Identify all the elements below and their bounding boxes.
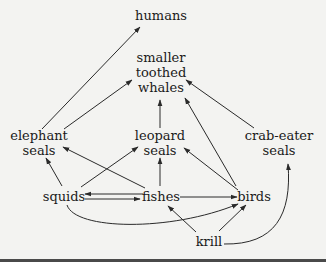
node-birds-label: birds — [237, 189, 271, 204]
edge-squids-to-leopard-seals — [81, 147, 138, 187]
edge-squids-to-elephant-seals — [46, 158, 62, 186]
node-leopard-seals-line-2: seals — [135, 143, 185, 158]
node-crab-eater-seals-line-1: crab-eater — [245, 128, 314, 143]
food-web-diagram: humans smaller toothed whales elephant s… — [0, 0, 326, 262]
edge-fishes-to-elephant-seals — [63, 147, 145, 188]
node-crab-eater-seals-line-2: seals — [245, 143, 314, 158]
edge-elephant-seals-to-humans — [42, 27, 140, 129]
edge-squids-to-birds — [67, 204, 238, 224]
edge-elephant-seals-to-whales — [64, 80, 132, 129]
node-squids-label: squids — [43, 189, 86, 204]
node-squids: squids — [43, 189, 86, 204]
node-elephant-seals-line-2: seals — [10, 143, 68, 158]
edge-birds-to-leopard-seals — [184, 148, 238, 190]
node-humans: humans — [135, 8, 187, 23]
node-humans-label: humans — [135, 8, 187, 23]
edge-crab-eater-to-whales — [186, 80, 254, 128]
node-crab-eater-seals: crab-eater seals — [245, 128, 314, 158]
node-whales-line-2: toothed — [136, 65, 187, 80]
node-fishes: fishes — [142, 189, 180, 204]
node-smaller-toothed-whales: smaller toothed whales — [136, 50, 187, 95]
edge-birds-to-whales — [185, 98, 236, 186]
node-krill-label: krill — [196, 234, 223, 249]
node-leopard-seals-line-1: leopard — [135, 128, 185, 143]
node-whales-line-1: smaller — [136, 50, 187, 65]
edge-krill-to-crab-eater — [224, 164, 289, 244]
edge-krill-to-fishes — [168, 206, 196, 232]
node-leopard-seals: leopard seals — [135, 128, 185, 158]
node-whales-line-3: whales — [136, 80, 187, 95]
node-elephant-seals-line-1: elephant — [10, 128, 68, 143]
edge-krill-to-birds — [219, 205, 246, 231]
node-elephant-seals: elephant seals — [10, 128, 68, 158]
node-krill: krill — [196, 234, 223, 249]
node-fishes-label: fishes — [142, 189, 180, 204]
node-birds: birds — [237, 189, 271, 204]
